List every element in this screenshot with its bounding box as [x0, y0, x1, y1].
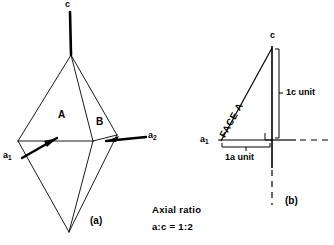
crystallography-figure: c a1 a2 A B (a) c a1 FACE A 1c unit 1a u…	[0, 0, 334, 245]
a1-axis-label-panel-b: a1	[200, 135, 209, 146]
a2-axis-line-panel-a	[106, 136, 146, 142]
a-unit-bracket	[222, 143, 270, 151]
face-a-label: A	[58, 110, 65, 120]
c-axis-label-panel-a: c	[65, 0, 70, 9]
a2-axis-label-panel-a: a2	[148, 131, 157, 142]
c-axis-label-panel-b: c	[270, 31, 275, 40]
panel-b-label: (b)	[285, 196, 298, 206]
axial-ratio-value: a:c = 1:2	[152, 222, 193, 232]
crystal-edge-apex-right	[71, 55, 117, 135]
c-axis-line-panel-a	[70, 12, 71, 55]
axial-ratio-title: Axial ratio	[152, 205, 201, 215]
panel-a-label: (a)	[90, 216, 102, 226]
a1-axis-label-panel-a: a1	[3, 151, 12, 162]
face-b-label: B	[96, 117, 103, 127]
a-unit-label: 1a unit	[225, 153, 254, 162]
c-unit-label: 1c unit	[286, 88, 315, 97]
c-unit-bracket	[275, 49, 283, 138]
crystal-edge-apex-mid	[71, 55, 93, 141]
right-angle-marker	[265, 133, 272, 140]
crystal-edge-apex-left	[18, 55, 71, 141]
